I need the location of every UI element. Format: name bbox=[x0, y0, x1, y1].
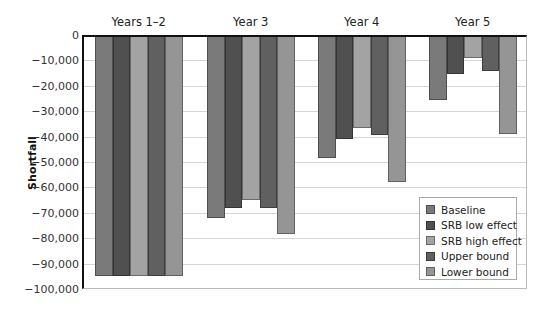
bar bbox=[95, 37, 113, 276]
bar bbox=[388, 37, 406, 182]
y-tick-label: −20,000 bbox=[31, 79, 79, 92]
y-tick-label: −10,000 bbox=[31, 54, 79, 67]
legend-swatch-icon bbox=[426, 236, 435, 245]
bar bbox=[353, 37, 371, 128]
legend-swatch-icon bbox=[426, 267, 435, 276]
x-category-label: Year 5 bbox=[423, 15, 523, 29]
bar bbox=[130, 37, 148, 276]
legend-swatch-icon bbox=[426, 205, 435, 214]
legend-item: Upper bound bbox=[426, 249, 516, 265]
legend-item: SRB low effect bbox=[426, 218, 516, 234]
bar bbox=[336, 37, 354, 139]
bar bbox=[464, 37, 482, 58]
bar bbox=[207, 37, 225, 218]
bar bbox=[165, 37, 183, 276]
bar bbox=[371, 37, 389, 135]
legend: BaselineSRB low effectSRB high effectUpp… bbox=[419, 197, 517, 280]
bar bbox=[242, 37, 260, 200]
legend-swatch-icon bbox=[426, 221, 435, 230]
legend-label: Baseline bbox=[441, 204, 486, 216]
bar bbox=[260, 37, 278, 208]
y-tick-label: −90,000 bbox=[31, 257, 79, 270]
y-tick-label: −40,000 bbox=[31, 130, 79, 143]
legend-label: SRB low effect bbox=[441, 219, 517, 231]
x-category-label: Years 1–2 bbox=[89, 15, 189, 29]
bar bbox=[482, 37, 500, 71]
bar bbox=[113, 37, 131, 276]
y-tick-label: −100,000 bbox=[24, 283, 79, 296]
y-tick-label: −50,000 bbox=[31, 156, 79, 169]
bar bbox=[447, 37, 465, 74]
y-tick-label: −30,000 bbox=[31, 105, 79, 118]
y-tick-label: −60,000 bbox=[31, 181, 79, 194]
legend-item: SRB high effect bbox=[426, 233, 516, 249]
bar bbox=[429, 37, 447, 100]
y-tick-label: 0 bbox=[72, 29, 79, 42]
legend-item: Baseline bbox=[426, 202, 516, 218]
legend-item: Lower bound bbox=[426, 264, 516, 280]
bar bbox=[148, 37, 166, 276]
bar bbox=[318, 37, 336, 158]
legend-swatch-icon bbox=[426, 252, 435, 261]
bar bbox=[277, 37, 295, 234]
bar bbox=[499, 37, 517, 134]
x-category-label: Year 4 bbox=[312, 15, 412, 29]
legend-label: Lower bound bbox=[441, 266, 509, 278]
x-category-label: Year 3 bbox=[201, 15, 301, 29]
bar bbox=[225, 37, 243, 208]
y-tick-label: −80,000 bbox=[31, 232, 79, 245]
bar-chart: Shortfall 0−10,000−20,000−30,000−40,000−… bbox=[0, 0, 545, 310]
legend-label: SRB high effect bbox=[441, 235, 522, 247]
legend-label: Upper bound bbox=[441, 250, 509, 262]
y-tick-label: −70,000 bbox=[31, 206, 79, 219]
